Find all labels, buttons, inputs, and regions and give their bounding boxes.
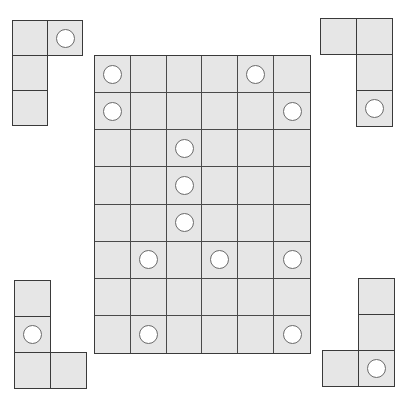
board-cell-r4-c4[interactable] bbox=[238, 205, 274, 242]
board-cell-r1-c1[interactable] bbox=[131, 93, 167, 130]
board-cell-r5-c1[interactable] bbox=[131, 242, 167, 279]
piece-cell bbox=[12, 90, 48, 126]
piece-cell bbox=[356, 18, 393, 55]
board-cell-r7-c2[interactable] bbox=[167, 316, 203, 353]
piece-cell bbox=[12, 20, 48, 56]
circle-icon bbox=[246, 65, 265, 84]
circle-icon bbox=[139, 325, 158, 344]
circle-icon bbox=[175, 213, 194, 232]
circle-icon bbox=[139, 250, 158, 269]
board-cell-r7-c0[interactable] bbox=[95, 316, 131, 353]
piece-cell bbox=[322, 350, 359, 387]
piece-cell bbox=[320, 18, 357, 55]
circle-icon bbox=[56, 29, 75, 48]
board-cell-r5-c2[interactable] bbox=[167, 242, 203, 279]
circle-icon bbox=[283, 250, 302, 269]
circle-icon bbox=[175, 139, 194, 158]
piece-cell bbox=[356, 90, 393, 127]
piece-cell bbox=[14, 352, 51, 389]
board-cell-r1-c5[interactable] bbox=[274, 93, 310, 130]
board-cell-r6-c4[interactable] bbox=[238, 279, 274, 316]
board-cell-r6-c1[interactable] bbox=[131, 279, 167, 316]
board-cell-r4-c2[interactable] bbox=[167, 205, 203, 242]
board-cell-r3-c3[interactable] bbox=[202, 167, 238, 204]
circle-icon bbox=[283, 102, 302, 121]
circle-icon bbox=[210, 250, 229, 269]
board-cell-r4-c1[interactable] bbox=[131, 205, 167, 242]
piece-cell bbox=[358, 278, 395, 315]
board-cell-r4-c0[interactable] bbox=[95, 205, 131, 242]
piece-cell bbox=[356, 54, 393, 91]
board-cell-r3-c4[interactable] bbox=[238, 167, 274, 204]
board-cell-r0-c3[interactable] bbox=[202, 56, 238, 93]
board-cell-r4-c5[interactable] bbox=[274, 205, 310, 242]
board-cell-r1-c3[interactable] bbox=[202, 93, 238, 130]
board-cell-r1-c0[interactable] bbox=[95, 93, 131, 130]
board-cell-r0-c1[interactable] bbox=[131, 56, 167, 93]
board-cell-r6-c3[interactable] bbox=[202, 279, 238, 316]
board-cell-r3-c1[interactable] bbox=[131, 167, 167, 204]
board-cell-r0-c0[interactable] bbox=[95, 56, 131, 93]
board-cell-r4-c3[interactable] bbox=[202, 205, 238, 242]
piece-cell bbox=[12, 55, 48, 91]
game-board bbox=[94, 55, 311, 354]
board-cell-r0-c5[interactable] bbox=[274, 56, 310, 93]
board-cell-r0-c4[interactable] bbox=[238, 56, 274, 93]
board-cell-r2-c2[interactable] bbox=[167, 130, 203, 167]
circle-icon bbox=[23, 325, 42, 344]
board-cell-r3-c5[interactable] bbox=[274, 167, 310, 204]
piece-cell bbox=[50, 352, 87, 389]
circle-icon bbox=[103, 102, 122, 121]
board-cell-r6-c5[interactable] bbox=[274, 279, 310, 316]
circle-icon bbox=[103, 65, 122, 84]
board-cell-r1-c2[interactable] bbox=[167, 93, 203, 130]
board-cell-r3-c0[interactable] bbox=[95, 167, 131, 204]
board-cell-r7-c4[interactable] bbox=[238, 316, 274, 353]
circle-icon bbox=[365, 99, 384, 118]
board-cell-r6-c2[interactable] bbox=[167, 279, 203, 316]
board-cell-r7-c1[interactable] bbox=[131, 316, 167, 353]
board-cell-r7-c3[interactable] bbox=[202, 316, 238, 353]
board-cell-r5-c5[interactable] bbox=[274, 242, 310, 279]
piece-cell bbox=[14, 280, 51, 317]
board-cell-r2-c4[interactable] bbox=[238, 130, 274, 167]
piece-cell bbox=[14, 316, 51, 353]
board-cell-r2-c3[interactable] bbox=[202, 130, 238, 167]
circle-icon bbox=[175, 176, 194, 195]
board-cell-r2-c0[interactable] bbox=[95, 130, 131, 167]
board-cell-r7-c5[interactable] bbox=[274, 316, 310, 353]
board-cell-r2-c1[interactable] bbox=[131, 130, 167, 167]
board-cell-r6-c0[interactable] bbox=[95, 279, 131, 316]
board-cell-r2-c5[interactable] bbox=[274, 130, 310, 167]
piece-cell bbox=[358, 350, 395, 387]
board-cell-r5-c3[interactable] bbox=[202, 242, 238, 279]
board-cell-r5-c0[interactable] bbox=[95, 242, 131, 279]
circle-icon bbox=[283, 325, 302, 344]
circle-icon bbox=[367, 359, 386, 378]
piece-cell bbox=[47, 20, 83, 56]
board-cell-r3-c2[interactable] bbox=[167, 167, 203, 204]
piece-cell bbox=[358, 314, 395, 351]
board-cell-r5-c4[interactable] bbox=[238, 242, 274, 279]
board-cell-r0-c2[interactable] bbox=[167, 56, 203, 93]
board-cell-r1-c4[interactable] bbox=[238, 93, 274, 130]
